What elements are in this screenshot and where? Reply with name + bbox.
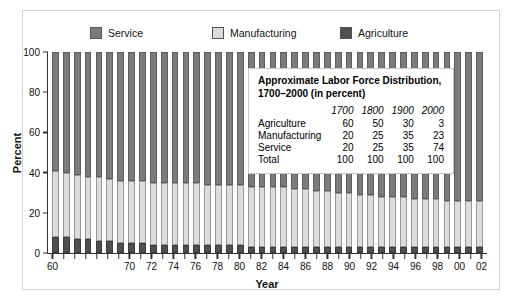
x-tick-mark xyxy=(162,254,164,259)
y-tick-100: 100 xyxy=(23,47,48,58)
bar-72 xyxy=(150,52,157,253)
bar-segment-service xyxy=(63,52,70,173)
bar-segment-agriculture xyxy=(270,247,277,253)
x-tick-mark xyxy=(151,254,153,259)
x-tick-label: 98 xyxy=(432,261,443,272)
bar-segment-manufacturing xyxy=(378,197,385,247)
x-tick-72: 72 xyxy=(146,254,157,272)
bar-segment-manufacturing xyxy=(444,201,451,247)
x-tick-label: 86 xyxy=(300,261,311,272)
x-tick-mark xyxy=(63,254,65,259)
table-row: Total100100100100 xyxy=(258,154,444,166)
x-tick-mark xyxy=(107,254,109,259)
bar-segment-agriculture xyxy=(378,247,385,253)
x-tick-mark xyxy=(184,254,186,259)
bar-segment-manufacturing xyxy=(389,197,396,247)
bar-segment-manufacturing xyxy=(183,183,190,245)
bar-segment-service xyxy=(237,52,244,185)
x-tick-mark xyxy=(371,254,373,259)
x-tick-mark xyxy=(217,254,219,259)
bar-79 xyxy=(226,52,233,253)
legend-label-manufacturing: Manufacturing xyxy=(230,28,297,39)
bar-segment-manufacturing xyxy=(128,181,135,243)
x-tick-label: 72 xyxy=(146,261,157,272)
x-tick-86: 86 xyxy=(300,254,311,272)
x-tick-label: 92 xyxy=(366,261,377,272)
bar-segment-manufacturing xyxy=(85,177,92,239)
bar-segment-manufacturing xyxy=(215,185,222,245)
bar-segment-agriculture xyxy=(411,247,418,253)
x-tick-mark xyxy=(140,254,142,259)
table-row: Agriculture6050303 xyxy=(258,118,444,130)
bar-segment-service xyxy=(128,52,135,181)
x-tick-mark xyxy=(459,254,461,259)
bar-segment-agriculture xyxy=(302,247,309,253)
bar-segment-service xyxy=(139,52,146,181)
x-axis-title: Year xyxy=(47,278,487,290)
table-header-2000: 2000 xyxy=(414,105,444,118)
bar-segment-manufacturing xyxy=(150,183,157,245)
bar-61 xyxy=(63,52,70,253)
x-tick-minor xyxy=(316,254,318,259)
bar-segment-service xyxy=(193,52,200,183)
bar-segment-manufacturing xyxy=(465,201,472,247)
bar-segment-agriculture xyxy=(106,241,113,253)
bar-segment-manufacturing xyxy=(237,185,244,245)
x-tick-minor xyxy=(448,254,450,259)
table-cell: 100 xyxy=(414,154,444,166)
y-tick-label: 40 xyxy=(29,167,40,178)
x-tick-70: 70 xyxy=(124,254,135,272)
bar-segment-manufacturing xyxy=(74,175,81,239)
x-tick-label: 60 xyxy=(47,261,58,272)
bar-segment-service xyxy=(150,52,157,183)
bar-63 xyxy=(85,52,92,253)
bar-segment-service xyxy=(476,52,483,201)
legend-swatch-manufacturing xyxy=(212,27,224,39)
x-tick-mark xyxy=(305,254,307,259)
chart-legend: Service Manufacturing Agriculture xyxy=(22,22,500,44)
x-tick-label: 82 xyxy=(256,261,267,272)
y-tick-40: 40 xyxy=(29,167,48,178)
bar-60 xyxy=(52,52,59,253)
bar-segment-agriculture xyxy=(85,239,92,253)
y-axis-title-text: Percent xyxy=(11,133,23,173)
bar-77 xyxy=(204,52,211,253)
bar-segment-manufacturing xyxy=(161,183,168,245)
bar-segment-service xyxy=(85,52,92,177)
x-tick-label: 84 xyxy=(278,261,289,272)
bar-78 xyxy=(215,52,222,253)
x-tick-mark xyxy=(415,254,417,259)
bar-segment-agriculture xyxy=(172,245,179,253)
legend-label-agriculture: Agriculture xyxy=(358,28,408,39)
x-tick-minor xyxy=(228,254,230,259)
x-tick-minor xyxy=(118,254,120,259)
x-tick-minor xyxy=(272,254,274,259)
bar-segment-manufacturing xyxy=(248,187,255,247)
bar-segment-manufacturing xyxy=(313,191,320,247)
x-tick-98: 98 xyxy=(432,254,443,272)
bar-segment-agriculture xyxy=(259,247,266,253)
bar-segment-manufacturing xyxy=(357,195,364,247)
bar-segment-agriculture xyxy=(400,247,407,253)
bar-segment-manufacturing xyxy=(400,197,407,247)
x-tick-mark xyxy=(470,254,472,259)
x-tick-96: 96 xyxy=(410,254,421,272)
table-row: Manufacturing20253523 xyxy=(258,130,444,142)
x-tick-88: 88 xyxy=(322,254,333,272)
x-tick-label: 88 xyxy=(322,261,333,272)
bar-73 xyxy=(161,52,168,253)
bar-segment-agriculture xyxy=(204,245,211,253)
x-tick-minor xyxy=(250,254,252,259)
bar-segment-agriculture xyxy=(63,237,70,253)
table-cell: 50 xyxy=(354,118,384,130)
legend-swatch-agriculture xyxy=(340,27,352,39)
x-tick-60: 60 xyxy=(47,254,58,272)
table-header-row: 1700 1800 1900 2000 xyxy=(258,105,444,118)
x-tick-mark xyxy=(52,254,54,259)
table-row-label: Manufacturing xyxy=(258,130,323,142)
bar-segment-manufacturing xyxy=(259,187,266,247)
x-tick-84: 84 xyxy=(278,254,289,272)
x-tick-minor xyxy=(85,254,87,259)
x-tick-mark xyxy=(404,254,406,259)
table-row-label: Total xyxy=(258,154,323,166)
